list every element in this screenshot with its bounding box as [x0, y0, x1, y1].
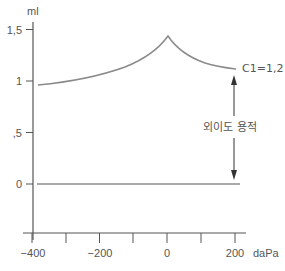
x-tick-label: −200	[88, 247, 113, 259]
x-tick-label: −400	[21, 247, 46, 259]
y-tick-label: 0	[16, 178, 22, 190]
y-tick-label: 1	[16, 75, 22, 87]
x-axis-unit: daPa	[253, 247, 280, 259]
y-tick-label: 1,5	[7, 24, 22, 36]
c1-label: C1=1,2	[242, 62, 283, 75]
y-tick-label: ,5	[13, 127, 22, 139]
x-tick-label: 200	[226, 247, 244, 259]
arrow-up-icon	[231, 75, 237, 85]
tympanogram-chart: 1,5 1 ,5 0 ml −400 −200 0 200 daPa C1=1,…	[0, 0, 285, 271]
y-axis-unit: ml	[27, 5, 39, 17]
ear-canal-volume-label: 외이도 용적	[203, 121, 257, 134]
x-tick-label: 0	[164, 247, 170, 259]
tympanogram-curve	[38, 36, 236, 85]
arrow-down-icon	[231, 170, 237, 180]
